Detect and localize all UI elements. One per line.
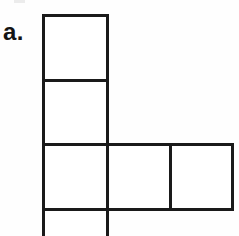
polyomino-net-drawing [0,0,239,236]
figure-container: a. [0,0,239,236]
cell-top [43,15,107,80]
cell-center-middle [107,144,170,209]
cell-center-right [170,144,232,209]
cell-upper-middle [43,80,107,144]
cell-bottom-clipped [43,209,107,236]
cell-center-left [43,144,107,209]
